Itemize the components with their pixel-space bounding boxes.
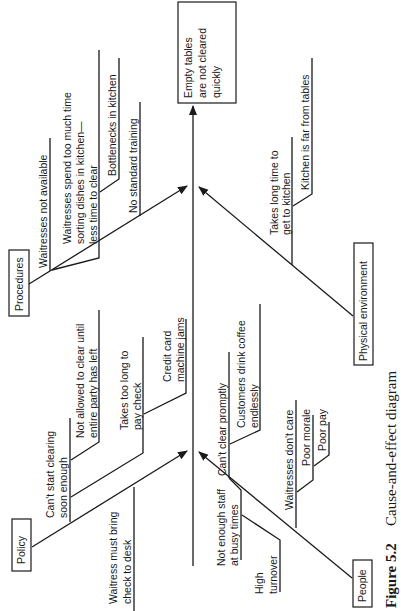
people-box: People: [353, 560, 372, 607]
subcause-text: machine jams: [174, 317, 186, 382]
subcause-text: endlessly: [248, 383, 260, 428]
physical-environment-box: Physical environment: [354, 243, 373, 365]
cause-text: less time to clear: [87, 165, 99, 244]
cause-text: at busy times: [228, 504, 240, 566]
cause-text: Can't clear promptly: [216, 382, 228, 476]
procedures-label: Procedures: [13, 257, 25, 311]
subcause-text: Bottlenecks in kitchen: [106, 74, 118, 176]
subcause-text: entire party has left: [87, 349, 99, 438]
cause-text: Waitress must bring: [107, 511, 119, 604]
effect-box: Empty tables are not cleared quickly: [178, 2, 236, 103]
cause-text: check to desk: [121, 539, 133, 604]
cause-text: Can't start clearing: [44, 431, 56, 518]
cause-text: Waitresses spend too much time: [61, 92, 73, 244]
cause-text: sorting dishes in kitchen—: [74, 121, 86, 244]
figure-number: Figure 5.2: [383, 543, 399, 608]
people-label: People: [356, 569, 368, 602]
figure-title: Cause-and-effect diagram: [383, 371, 399, 526]
subcause-text: Not allowed to clear until: [74, 324, 86, 438]
subcause-text: Poor morale: [300, 409, 312, 466]
cause-text: pay check: [131, 382, 143, 430]
cause-text: Waitresses not available: [37, 154, 49, 268]
subcause-text: Customers drink coffee: [235, 320, 247, 428]
cause-text: Not enough staff: [215, 489, 227, 566]
cause-text: get to kitchen: [280, 172, 292, 235]
cause-text: Takes long time to: [268, 150, 280, 235]
effect-line-3: quickly: [210, 65, 222, 98]
effect-line-2: are not cleared: [196, 28, 208, 98]
subcause-text: High: [253, 572, 265, 594]
subcause-text: Poor pay: [316, 408, 328, 451]
policy-box: Policy: [12, 519, 31, 571]
subcause-text: Credit card: [161, 330, 173, 382]
cause-text: No standard training: [127, 118, 139, 213]
subcause-text: Kitchen is far from tables: [299, 74, 311, 190]
fishbone-diagram: Empty tables are not cleared quickly Pro…: [0, 0, 401, 611]
cause-text: Waitresses don't care: [283, 410, 295, 510]
effect-line-1: Empty tables: [182, 37, 194, 98]
procedures-box: Procedures: [9, 250, 29, 316]
subcause-text: turnover: [267, 555, 279, 594]
physical-environment-label: Physical environment: [357, 261, 369, 361]
policy-label: Policy: [15, 535, 27, 564]
cause-text: soon enough: [57, 457, 69, 518]
cause-text: Takes too long to: [118, 350, 130, 430]
